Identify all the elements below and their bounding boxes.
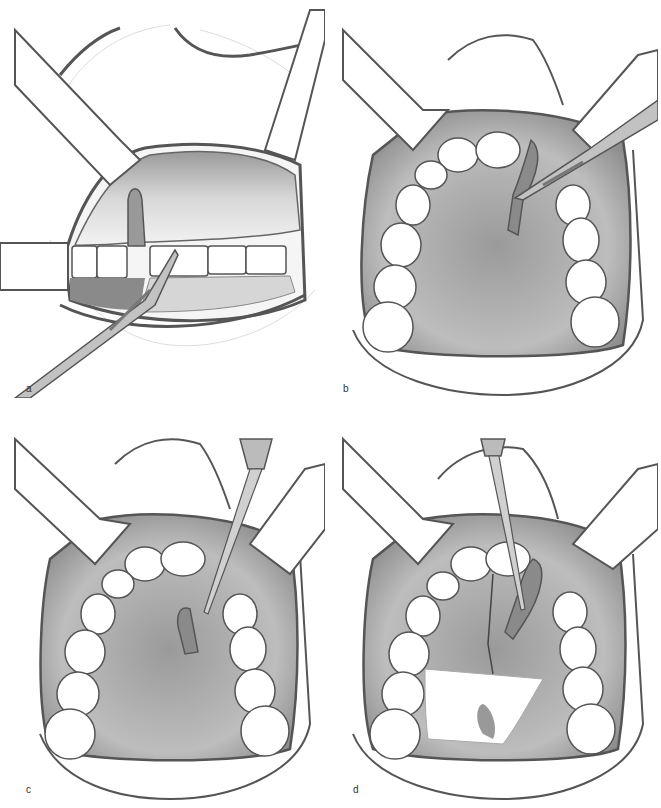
frontal-incision-illustration [0,0,325,398]
panel-a: a [0,0,325,398]
panel-label-a: a [26,383,32,394]
palatal-elevation-illustration [0,404,325,802]
panel-label-b: b [343,383,349,394]
panel-label-c: c [26,784,31,795]
panel-label-d: d [353,784,359,795]
palatal-flap-reflection-illustration [333,404,658,802]
panel-c: c [0,404,325,802]
panel-b: b [333,0,658,398]
palatal-incision-illustration [333,0,658,398]
panel-d: d [333,404,658,802]
